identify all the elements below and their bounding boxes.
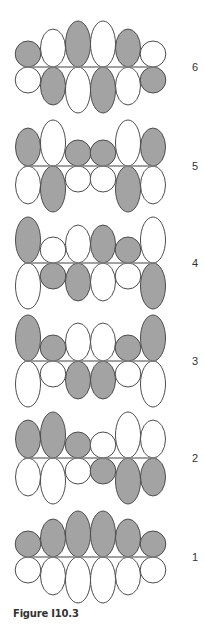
lower-lobe-2-shaded — [40, 263, 66, 289]
lower-lobe-5-shaded — [116, 166, 141, 212]
lower-lobe-3-unshaded — [65, 166, 91, 192]
level-label: 3 — [192, 355, 198, 367]
upper-lobe-2-unshaded — [41, 120, 66, 166]
upper-lobe-2-shaded — [41, 412, 66, 458]
lower-lobe-1-unshaded — [16, 458, 41, 496]
orbital-diagram-2: 2 — [16, 412, 199, 504]
lower-lobe-4-shaded — [90, 458, 116, 484]
figure-caption: Figure I10.3 — [13, 608, 79, 619]
upper-lobe-1-shaded — [16, 128, 41, 166]
upper-lobe-1-shaded — [15, 531, 41, 557]
lower-lobe-2-unshaded — [40, 361, 66, 387]
lower-lobe-4-unshaded — [90, 166, 116, 192]
lower-lobe-4-shaded — [91, 361, 116, 399]
upper-lobe-3-shaded — [66, 21, 91, 67]
lower-lobe-6-shaded — [141, 263, 166, 309]
lower-lobe-2-shaded — [41, 166, 66, 212]
lower-lobe-3-shaded — [66, 263, 91, 301]
upper-lobe-5-shaded — [115, 335, 141, 361]
lower-lobe-5-unshaded — [116, 67, 141, 105]
upper-lobe-2-unshaded — [40, 237, 66, 263]
level-label: 2 — [192, 452, 198, 464]
lower-lobe-5-unshaded — [115, 361, 141, 387]
level-label: 6 — [192, 61, 198, 73]
upper-lobe-4-unshaded — [91, 21, 116, 67]
lower-lobe-3-unshaded — [66, 67, 91, 113]
lower-lobe-2-shaded — [41, 67, 66, 105]
upper-lobe-2-shaded — [41, 519, 66, 557]
upper-lobe-5-shaded — [116, 519, 141, 557]
upper-lobe-4-shaded — [91, 225, 116, 263]
lower-lobe-3-shaded — [66, 361, 91, 399]
upper-lobe-5-shaded — [115, 237, 141, 263]
lower-lobe-6-unshaded — [141, 166, 166, 204]
upper-lobe-4-unshaded — [91, 323, 116, 361]
lower-lobe-2-unshaded — [41, 458, 66, 504]
upper-lobe-6-shaded — [141, 128, 166, 166]
lower-lobe-3-unshaded — [65, 458, 91, 484]
lower-lobe-4-unshaded — [91, 557, 116, 603]
lower-lobe-5-shaded — [116, 458, 141, 504]
level-label: 5 — [192, 160, 198, 172]
lower-lobe-1-unshaded — [15, 67, 41, 93]
lower-lobe-6-unshaded — [141, 361, 166, 407]
upper-lobe-4-shaded — [91, 511, 116, 557]
upper-lobe-2-unshaded — [41, 29, 66, 67]
upper-lobe-3-unshaded — [66, 225, 91, 263]
upper-lobe-3-shaded — [65, 432, 91, 458]
upper-lobe-4-shaded — [90, 140, 116, 166]
upper-lobe-3-unshaded — [66, 323, 91, 361]
lower-lobe-1-unshaded — [16, 166, 41, 204]
lower-lobe-6-shaded — [141, 458, 166, 496]
level-label: 4 — [192, 257, 198, 269]
upper-lobe-6-unshaded — [140, 41, 166, 67]
upper-lobe-6-unshaded — [141, 217, 166, 263]
upper-lobe-5-unshaded — [116, 120, 141, 166]
lower-lobe-1-unshaded — [16, 263, 41, 309]
upper-lobe-5-unshaded — [116, 412, 141, 458]
orbital-diagram-1: 1 — [15, 511, 198, 603]
upper-lobe-4-unshaded — [90, 432, 116, 458]
orbital-diagram-5: 5 — [16, 120, 199, 212]
lower-lobe-5-unshaded — [115, 263, 141, 289]
lower-lobe-1-unshaded — [16, 361, 41, 407]
lower-lobe-4-unshaded — [91, 263, 116, 301]
lower-lobe-1-unshaded — [15, 557, 41, 583]
lower-lobe-4-shaded — [91, 67, 116, 113]
upper-lobe-1-shaded — [16, 315, 41, 361]
lower-lobe-6-shaded — [140, 67, 166, 93]
orbital-diagram-4: 4 — [16, 217, 199, 309]
level-label: 1 — [192, 551, 198, 563]
lower-lobe-6-unshaded — [140, 557, 166, 583]
orbital-diagram-6: 6 — [15, 21, 198, 113]
upper-lobe-3-shaded — [65, 140, 91, 166]
upper-lobe-1-shaded — [16, 420, 41, 458]
upper-lobe-6-shaded — [141, 315, 166, 361]
upper-lobe-1-shaded — [16, 217, 41, 263]
orbital-diagram-3: 3 — [16, 315, 199, 407]
upper-lobe-1-shaded — [15, 41, 41, 67]
upper-lobe-2-shaded — [40, 335, 66, 361]
upper-lobe-6-unshaded — [141, 420, 166, 458]
upper-lobe-3-shaded — [66, 511, 91, 557]
lower-lobe-5-unshaded — [116, 557, 141, 595]
lower-lobe-2-unshaded — [41, 557, 66, 595]
upper-lobe-6-shaded — [140, 531, 166, 557]
upper-lobe-5-shaded — [116, 29, 141, 67]
molecular-orbital-figure: 654321 — [0, 0, 205, 636]
lower-lobe-3-unshaded — [66, 557, 91, 603]
